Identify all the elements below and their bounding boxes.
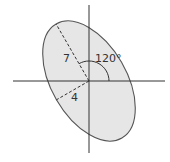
ellipse-diagram: 7 4 120° <box>0 0 170 162</box>
semi-minor-label: 4 <box>71 91 78 104</box>
angle-label: 120° <box>95 52 122 65</box>
semi-major-label: 7 <box>63 52 70 65</box>
